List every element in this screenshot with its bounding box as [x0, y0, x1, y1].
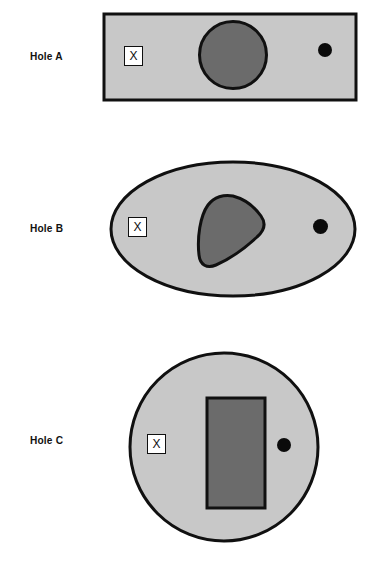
hole-a-x-marker: X [124, 46, 143, 66]
hole-cross-section-figure [0, 0, 375, 570]
panel-label-hole-c: Hole C [30, 434, 63, 446]
x-marker-glyph: X [129, 221, 146, 233]
x-marker-glyph: X [148, 438, 165, 450]
panel-label-hole-b: Hole B [30, 222, 63, 234]
hole-c-x-marker: X [147, 434, 166, 454]
panel-label-hole-a: Hole A [30, 50, 63, 62]
hole-b-reference-dot [313, 219, 328, 234]
hole-b-x-marker: X [128, 217, 147, 237]
hole-a-reference-dot [318, 43, 332, 57]
hole-a-inclusion-circle [200, 22, 267, 89]
hole-c-reference-dot [277, 438, 291, 452]
hole-c-inclusion-rectangle [207, 398, 265, 508]
x-marker-glyph: X [125, 50, 142, 62]
